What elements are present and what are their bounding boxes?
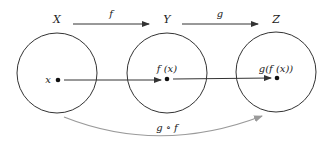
arrow-f-label: f [108,8,115,19]
point-gfx [275,76,280,81]
set-label-x: X [52,13,62,26]
function-composition-diagram: X Y Z f g x f (x) g(f (x)) g ∘ f [0,0,336,146]
set-label-z: Z [271,13,280,26]
arrow-g-label: g [217,8,223,19]
point-gfx-label: g(f (x)) [259,63,294,74]
set-circle-x [17,33,97,113]
point-x-label: x [45,74,51,85]
point-fx [165,77,170,82]
point-x [56,78,61,83]
mapping-arrow-g [173,78,271,79]
point-fx-label: f (x) [156,63,177,74]
composition-label: g ∘ f [156,122,180,133]
set-label-y: Y [163,13,172,26]
